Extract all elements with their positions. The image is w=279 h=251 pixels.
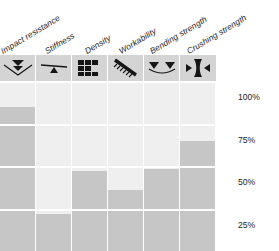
compressed-hourglass-arrows-icon (184, 58, 212, 78)
block-pixels-icon (77, 59, 103, 77)
two-triangles-down-on-curve-icon (147, 58, 177, 78)
bar-crushing-strength (180, 141, 215, 251)
bar-impact-resistance (0, 107, 35, 251)
bar-density (72, 171, 107, 251)
diagonal-saw-blade-icon (112, 58, 140, 78)
axis-tick-75: 75% (238, 135, 255, 145)
category-header-labels: Impact resistance Stiffness Density Work… (0, 0, 279, 56)
property-icon-row (0, 55, 216, 81)
bar-chart-plot-area (0, 81, 216, 251)
gridline-100 (0, 81, 216, 83)
icon-cell-bending-strength (144, 55, 180, 81)
header-label-density: Density (83, 33, 113, 56)
property-rating-chart: Impact resistance Stiffness Density Work… (0, 0, 279, 251)
bar-stiffness (36, 214, 71, 251)
axis-tick-100: 100% (238, 92, 260, 102)
gridline-25 (0, 209, 216, 211)
axis-tick-25: 25% (238, 220, 255, 230)
icon-cell-workability (108, 55, 144, 81)
icon-cell-stiffness (36, 55, 72, 81)
double-chevron-down-in-valley-icon (3, 58, 33, 78)
icon-cell-crushing-strength (180, 55, 216, 81)
axis-tick-50: 50% (238, 177, 255, 187)
triangle-up-on-beam-icon (39, 58, 69, 78)
gridline-50 (0, 166, 216, 168)
gridline-75 (0, 124, 216, 126)
icon-cell-density (72, 55, 108, 81)
percentage-axis: 100% 75% 50% 25% 0% (216, 81, 279, 251)
icon-cell-impact-resistance (0, 55, 36, 81)
header-label-stiffness: Stiffness (43, 30, 76, 56)
bar-workability (108, 190, 143, 251)
